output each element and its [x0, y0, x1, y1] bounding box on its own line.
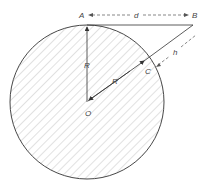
label-B: B [192, 11, 198, 20]
label-d: d [134, 11, 139, 20]
label-A: A [78, 11, 84, 20]
label-h: h [173, 48, 178, 57]
dimension-d [88, 13, 189, 17]
label-R-diagonal: R [112, 77, 118, 86]
label-R-vertical: R [84, 61, 90, 70]
label-C: C [145, 67, 151, 76]
label-O: O [85, 109, 91, 118]
earth-horizon-diagram: A B C O d h R R [0, 0, 207, 186]
